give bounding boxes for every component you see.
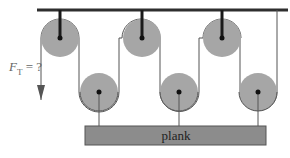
axle-icon [177,90,182,95]
force-label: FT = ? [8,59,42,77]
bottom-pulley-3 [239,73,277,126]
bottom-pulley-1 [80,73,118,126]
axle-icon [256,90,261,95]
bottom-pulley-2 [160,73,198,126]
force-arrow-icon [37,85,45,100]
pulley-diagram: plank FT = ? [0,0,290,158]
top-pulley-3 [203,10,241,57]
axle-icon [140,36,145,41]
top-pulley-1 [41,10,79,57]
axle-icon [220,36,225,41]
axle-icon [97,90,102,95]
force-suffix: = ? [22,59,42,74]
axle-icon [58,36,63,41]
plank-label: plank [162,128,191,143]
top-pulley-2 [123,10,161,57]
plank: plank [85,126,266,145]
